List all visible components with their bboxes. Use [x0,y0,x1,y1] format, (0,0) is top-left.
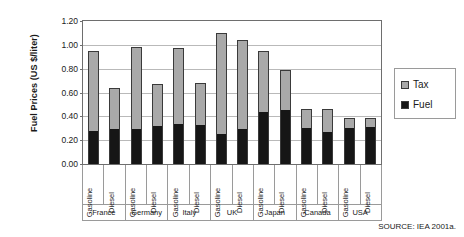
stacked-bar[interactable] [195,83,206,164]
x-axis-category-cell: Gasoline [296,165,317,205]
bar-segment-tax [345,119,354,128]
stacked-bar[interactable] [88,51,99,164]
group-label-row: FranceGermanyItalyUKJapanCanadaUSA [82,205,382,221]
bar-segment-tax [153,85,162,126]
bar-segment-tax [281,71,290,110]
stacked-bar[interactable] [216,33,227,164]
legend-label-tax: Tax [413,79,429,90]
stacked-bar[interactable] [131,47,142,164]
stacked-bar[interactable] [109,88,120,164]
plot-area: 0.000.200.400.600.801.001.20 [82,20,382,165]
x-axis-category-cell: Gasoline [82,165,103,205]
bar-slot [104,21,125,164]
bar-segment-tax [323,110,332,132]
chart-legend: Tax Fuel [394,68,456,119]
source-note: SOURCE: IEA 2001a. [378,222,456,231]
bar-slot [232,21,253,164]
x-axis-group-label: USA [338,205,382,221]
bar-segment-tax [110,89,119,129]
x-axis-category-cell: Diesel [232,165,253,205]
category-label-row: GasolineDieselGasolineDieselGasolineDies… [82,165,382,205]
bar-segment-tax [174,49,183,124]
bar-segment-fuel [196,125,205,164]
bar-segment-fuel [174,124,183,164]
bar-segment-fuel [259,112,268,164]
bar-segment-tax [217,34,226,135]
bar-slot [317,21,338,164]
bar-slot [189,21,210,164]
y-axis-tick-label: 0.20 [61,135,78,145]
fuel-prices-chart-figure: Fuel Prices (US $/liter) 0.000.200.400.6… [0,0,464,237]
bar-segment-tax [259,52,268,112]
y-axis-tick-label: 0.00 [61,159,78,169]
legend-swatch-fuel-icon [401,101,409,109]
bar-segment-fuel [132,129,141,164]
x-axis-group-label: Italy [167,205,210,221]
bar-segment-tax [302,110,311,128]
bar-segment-tax [238,41,247,128]
x-axis-category-cell: Diesel [189,165,210,205]
stacked-bar[interactable] [344,118,355,164]
bar-slot [275,21,296,164]
x-axis-group-label: France [82,205,125,221]
bar-segment-tax [89,52,98,131]
x-axis-category-cell: Diesel [103,165,124,205]
legend-item-tax: Tax [401,79,450,90]
bar-segment-fuel [217,134,226,164]
plot-area-wrapper: 0.000.200.400.600.801.001.20 [82,20,382,165]
bar-segment-fuel [323,132,332,164]
bar-series-container [83,21,381,164]
stacked-bar[interactable] [258,51,269,164]
stacked-bar[interactable] [237,40,248,164]
stacked-bar[interactable] [152,84,163,164]
stacked-bar[interactable] [322,109,333,164]
y-axis-tick-label: 0.40 [61,111,78,121]
y-axis-tick-label: 0.60 [61,88,78,98]
x-axis-category-cell: Gasoline [338,165,359,205]
x-axis-category-cell: Gasoline [253,165,274,205]
x-axis-category-cell: Diesel [317,165,338,205]
x-axis-category-cell: Diesel [360,165,382,205]
stacked-bar[interactable] [280,70,291,164]
stacked-bar[interactable] [173,48,184,164]
bar-segment-fuel [345,128,354,164]
x-axis-category-cell: Gasoline [125,165,146,205]
x-axis-category-cell: Diesel [146,165,167,205]
y-axis-tick-label: 1.00 [61,40,78,50]
bar-segment-fuel [153,126,162,164]
y-axis-tick-label: 1.20 [61,16,78,26]
y-axis-tick-label: 0.80 [61,64,78,74]
x-axis-group-label: Canada [296,205,339,221]
x-axis-category-cell: Gasoline [167,165,188,205]
legend-label-fuel: Fuel [413,99,432,110]
bar-slot [168,21,189,164]
stacked-bar[interactable] [365,118,376,164]
bar-segment-fuel [89,131,98,164]
bar-segment-fuel [110,129,119,164]
bar-slot [126,21,147,164]
y-axis-title: Fuel Prices (US $/liter) [29,3,39,163]
bar-slot [253,21,274,164]
x-axis-group-label: UK [210,205,253,221]
bar-segment-tax [366,119,375,127]
bar-slot [296,21,317,164]
x-axis-category-cell: Diesel [274,165,295,205]
bar-segment-fuel [302,128,311,164]
bar-slot [211,21,232,164]
bar-segment-tax [132,48,141,128]
x-axis-category-cell: Gasoline [210,165,231,205]
bar-slot [83,21,104,164]
bar-slot [338,21,359,164]
bar-slot [147,21,168,164]
legend-swatch-tax-icon [401,81,409,89]
x-axis-group-label: Germany [125,205,168,221]
bar-segment-fuel [366,127,375,164]
bar-segment-fuel [238,129,247,164]
bar-slot [360,21,381,164]
stacked-bar[interactable] [301,109,312,164]
legend-item-fuel: Fuel [401,99,450,110]
bar-segment-fuel [281,110,290,164]
x-axis-group-label: Japan [253,205,296,221]
bar-segment-tax [196,84,205,125]
